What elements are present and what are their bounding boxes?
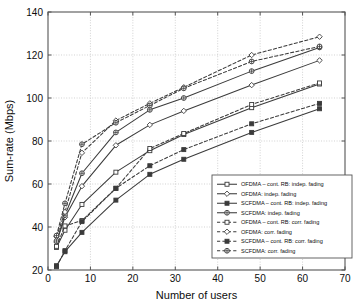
legend: OFDMA – cont. RB: indep. fadingOFDMA: in…	[212, 175, 352, 258]
x-tick-label: 70	[339, 273, 351, 284]
chart-figure: 01020304050607020406080100120140Number o…	[0, 0, 358, 308]
line-chart: 01020304050607020406080100120140Number o…	[0, 0, 358, 308]
data-point	[80, 171, 85, 176]
data-point	[318, 107, 322, 111]
data-point	[148, 147, 152, 151]
legend-label: OFDMA – cont. RB: indep. fading	[241, 181, 324, 187]
data-point	[63, 201, 68, 206]
data-point	[114, 198, 118, 202]
legend-box	[212, 175, 352, 258]
marker-square-filled	[318, 101, 322, 105]
marker-square-open	[114, 170, 118, 174]
marker-square-open	[63, 224, 67, 228]
data-point	[182, 148, 186, 152]
legend-label: SCFDMA: indep. fading	[241, 210, 300, 216]
data-point	[63, 249, 67, 253]
marker-square-filled	[80, 230, 84, 234]
y-axis-label: Sum-rate (Mbps)	[3, 100, 15, 183]
data-point	[113, 120, 118, 125]
x-tick-label: 60	[297, 273, 309, 284]
marker-square-filled	[250, 122, 254, 126]
marker-square-filled	[148, 164, 152, 168]
legend-marker	[225, 182, 229, 186]
legend-label: OFDMA: corr. fading	[241, 229, 292, 235]
marker-square-filled	[148, 172, 152, 176]
data-point	[181, 86, 186, 91]
y-tick-label: 140	[26, 7, 43, 18]
marker-square-open	[225, 182, 229, 186]
marker-square-filled	[318, 107, 322, 111]
data-point	[181, 96, 186, 101]
data-point	[318, 101, 322, 105]
x-tick-label: 10	[85, 273, 97, 284]
x-tick-label: 50	[255, 273, 267, 284]
data-point	[147, 103, 152, 108]
data-point	[182, 131, 186, 135]
marker-square-open	[148, 147, 152, 151]
data-point	[80, 230, 84, 234]
marker-square-open	[182, 131, 186, 135]
marker-square-filled	[63, 249, 67, 253]
data-point	[249, 59, 254, 64]
marker-square-open	[80, 202, 84, 206]
marker-square-filled	[225, 239, 229, 243]
marker-square-filled	[182, 157, 186, 161]
data-point	[54, 233, 59, 238]
data-point	[114, 170, 118, 174]
x-axis-label: Number of users	[156, 289, 238, 301]
data-point	[317, 44, 322, 49]
marker-square-filled	[80, 220, 84, 224]
legend-marker	[225, 201, 229, 205]
data-point	[113, 130, 118, 135]
y-tick-label: 40	[32, 222, 44, 233]
data-point	[63, 224, 67, 228]
data-point	[250, 102, 254, 106]
marker-square-filled	[114, 198, 118, 202]
x-tick-label: 40	[212, 273, 224, 284]
data-point	[182, 157, 186, 161]
data-point	[80, 202, 84, 206]
data-point	[54, 265, 58, 269]
marker-square-open	[54, 244, 58, 248]
y-tick-label: 20	[32, 265, 44, 276]
legend-marker	[225, 248, 230, 253]
y-tick-label: 60	[32, 179, 44, 190]
legend-marker	[225, 220, 229, 224]
marker-square-filled	[250, 130, 254, 134]
y-tick-label: 80	[32, 136, 44, 147]
data-point	[148, 164, 152, 168]
marker-square-open	[318, 81, 322, 85]
marker-square-open	[250, 102, 254, 106]
legend-label: SCFDMA – cont. RB: corr. fading	[241, 238, 323, 244]
legend-item[interactable]: SCFDMA: corr. fading	[217, 248, 295, 254]
marker-square-open	[225, 220, 229, 224]
marker-square-filled	[182, 148, 186, 152]
legend-label: SCFDMA – cont. RB: indep. fading	[241, 200, 327, 206]
marker-square-filled	[225, 201, 229, 205]
data-point	[80, 220, 84, 224]
y-tick-label: 120	[26, 50, 43, 61]
legend-marker	[225, 210, 230, 215]
y-tick-label: 100	[26, 93, 43, 104]
legend-label: OFDMA – cont. RB: corr. fading	[241, 219, 319, 225]
legend-label: SCFDMA: corr. fading	[241, 248, 295, 254]
marker-square-filled	[54, 265, 58, 269]
data-point	[249, 69, 254, 74]
data-point	[250, 122, 254, 126]
data-point	[148, 172, 152, 176]
legend-marker	[225, 239, 229, 243]
data-point	[318, 81, 322, 85]
data-point	[80, 142, 85, 147]
x-tick-label: 30	[170, 273, 182, 284]
marker-square-filled	[114, 186, 118, 190]
data-point	[54, 244, 58, 248]
data-point	[250, 130, 254, 134]
x-tick-label: 0	[45, 273, 51, 284]
data-point	[114, 186, 118, 190]
legend-label: OFDMA: indep. fading	[241, 191, 296, 197]
x-tick-label: 20	[127, 273, 139, 284]
